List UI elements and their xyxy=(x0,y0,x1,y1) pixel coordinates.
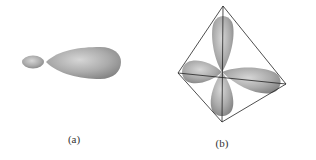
orbital-figure xyxy=(0,0,316,160)
panel-b-label: (b) xyxy=(216,137,229,149)
large-lobe xyxy=(46,47,121,79)
panel-b-tetrahedron xyxy=(178,6,286,122)
panel-a-label: (a) xyxy=(68,133,80,145)
lobe-left xyxy=(182,60,222,83)
small-lobe xyxy=(22,56,44,69)
panel-a-orbital xyxy=(22,47,121,79)
